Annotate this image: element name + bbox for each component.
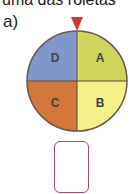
sector-d-label: D [51,51,60,65]
answer-box[interactable] [54,141,89,193]
sector-c-label: C [51,96,60,110]
sector-b-label: B [96,96,105,110]
sector-a-label: A [96,51,105,65]
pointer-icon [71,17,83,31]
